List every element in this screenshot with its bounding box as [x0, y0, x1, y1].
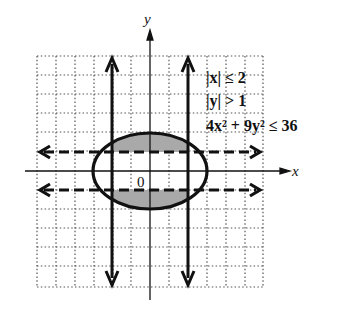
inequality-abs-x: |x| ≤ 2	[206, 69, 246, 87]
y-axis-arrow-icon	[147, 30, 153, 40]
inequality-abs-y: |y| > 1	[206, 92, 246, 110]
x-axis-arrow-icon	[280, 168, 290, 174]
origin-label: 0	[137, 174, 145, 190]
y-axis-label: y	[142, 11, 151, 27]
inequality-ellipse: 4x² + 9y² ≤ 36	[206, 117, 298, 135]
axes	[25, 30, 290, 300]
graph-figure: y x 0 |x| ≤ 2 |y| > 1 4x² + 9y² ≤ 36	[0, 0, 344, 309]
x-axis-label: x	[291, 163, 299, 179]
